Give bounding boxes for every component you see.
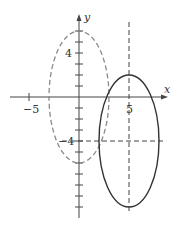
x-axis-label: x xyxy=(164,83,171,96)
x-tick-label-neg5: −5 xyxy=(23,103,39,116)
y-axis-label: y xyxy=(83,11,91,24)
coordinate-plane: x y −5 5 4 −4 xyxy=(0,0,180,228)
y-axis-arrow-icon xyxy=(77,14,82,21)
y-tick-label-4: 4 xyxy=(65,47,72,60)
